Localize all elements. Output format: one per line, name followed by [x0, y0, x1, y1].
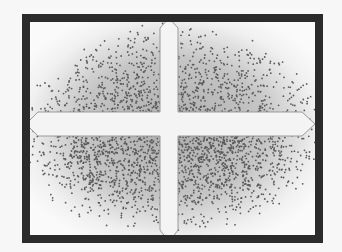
- cross-icon: [30, 22, 315, 235]
- picture-frame: [22, 14, 323, 243]
- cross-shape: [30, 22, 315, 235]
